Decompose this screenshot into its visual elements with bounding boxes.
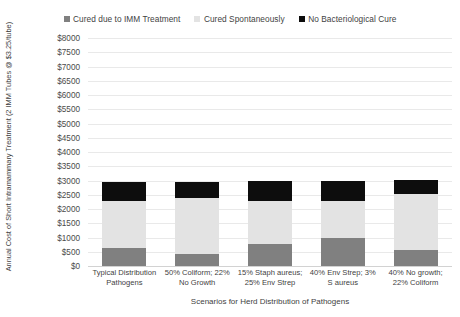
x-axis-tick-label-line: 22% Coliform <box>374 278 458 288</box>
legend-label-cured-spontaneously: Cured Spontaneously <box>204 14 285 24</box>
bar-segment[interactable] <box>175 254 219 266</box>
chart-legend: Cured due to IMM Treatment Cured Spontan… <box>0 14 460 24</box>
bar-segment[interactable] <box>248 181 292 201</box>
x-axis-tick-label: 40% Env Strep; 3%S aureus <box>301 268 385 288</box>
x-axis-tick-labels: Typical DistributionPathogens50% Colifor… <box>88 268 452 294</box>
x-axis-tick-label-line: Pathogens <box>82 278 166 288</box>
bar-column[interactable] <box>175 182 219 266</box>
bar-segment[interactable] <box>321 181 365 202</box>
legend-label-cured-imm-treatment: Cured due to IMM Treatment <box>73 14 180 24</box>
x-axis-tick-label-line: S aureus <box>301 278 385 288</box>
bar-segment[interactable] <box>175 182 219 197</box>
bar-segment[interactable] <box>248 244 292 267</box>
y-axis-tick-label: $0 <box>71 262 80 271</box>
y-axis-tick-label: $3000 <box>57 176 80 185</box>
y-axis-tick-label: $6500 <box>57 76 80 85</box>
x-axis-tick-label-line: Typical Distribution <box>82 268 166 278</box>
bar-column[interactable] <box>248 181 292 266</box>
x-axis-tick-label: 50% Coliform; 22%No Growth <box>155 268 239 288</box>
y-axis-tick-label: $4500 <box>57 133 80 142</box>
x-axis-tick-label: 15% Staph aureus;25% Env Strep <box>228 268 312 288</box>
x-axis-title: Scenarios for Herd Distribution of Patho… <box>88 297 452 306</box>
plot-area <box>88 38 452 266</box>
x-axis-tick-label-line: 15% Staph aureus; <box>228 268 312 278</box>
bar-column[interactable] <box>394 180 438 266</box>
x-axis-tick-label-line: 40% Env Strep; 3% <box>301 268 385 278</box>
legend-swatch-cured-spontaneously <box>194 16 200 22</box>
y-axis-tick-label: $1500 <box>57 219 80 228</box>
bar-segment[interactable] <box>248 201 292 243</box>
y-axis-tick-label: $6000 <box>57 91 80 100</box>
y-axis-tick-label: $8000 <box>57 34 80 43</box>
stacked-bar-chart: Cured due to IMM Treatment Cured Spontan… <box>0 0 460 317</box>
y-axis-tick-label: $1000 <box>57 233 80 242</box>
bar-segment[interactable] <box>321 238 365 267</box>
bar-segment[interactable] <box>394 250 438 266</box>
bar-segment[interactable] <box>102 182 146 201</box>
bar-column[interactable] <box>321 181 365 267</box>
y-axis-tick-label: $5000 <box>57 119 80 128</box>
y-axis-tick-labels: $0$500$1000$1500$2000$2500$3000$3500$400… <box>0 38 84 266</box>
x-axis-tick-label: Typical DistributionPathogens <box>82 268 166 288</box>
y-axis-tick-label: $3500 <box>57 162 80 171</box>
legend-label-no-bacteriological-cure: No Bacteriological Cure <box>308 14 396 24</box>
y-axis-tick-label: $2500 <box>57 190 80 199</box>
legend-swatch-cured-imm-treatment <box>64 16 70 22</box>
legend-item-no-bacteriological-cure[interactable]: No Bacteriological Cure <box>299 14 397 24</box>
y-axis-tick-label: $7500 <box>57 48 80 57</box>
bar-segment[interactable] <box>102 201 146 248</box>
y-axis-tick-label: $4000 <box>57 148 80 157</box>
bar-segment[interactable] <box>175 198 219 254</box>
y-axis-tick-label: $5500 <box>57 105 80 114</box>
y-axis-tick-label: $500 <box>62 247 80 256</box>
legend-item-cured-imm-treatment[interactable]: Cured due to IMM Treatment <box>64 14 181 24</box>
x-axis-tick-label: 40% No growth;22% Coliform <box>374 268 458 288</box>
legend-swatch-no-bacteriological-cure <box>299 16 305 22</box>
x-axis-tick-label-line: 50% Coliform; 22% <box>155 268 239 278</box>
bar-column[interactable] <box>102 182 146 266</box>
gridline <box>88 266 452 267</box>
y-axis-tick-label: $7000 <box>57 62 80 71</box>
x-axis-tick-label-line: 25% Env Strep <box>228 278 312 288</box>
bar-segment[interactable] <box>102 248 146 266</box>
bar-segment[interactable] <box>321 201 365 237</box>
x-axis-tick-label-line: No Growth <box>155 278 239 288</box>
bar-segment[interactable] <box>394 180 438 194</box>
bar-series-container <box>88 38 452 266</box>
y-axis-tick-label: $2000 <box>57 205 80 214</box>
bar-segment[interactable] <box>394 194 438 250</box>
x-axis-tick-label-line: 40% No growth; <box>374 268 458 278</box>
legend-item-cured-spontaneously[interactable]: Cured Spontaneously <box>194 14 284 24</box>
